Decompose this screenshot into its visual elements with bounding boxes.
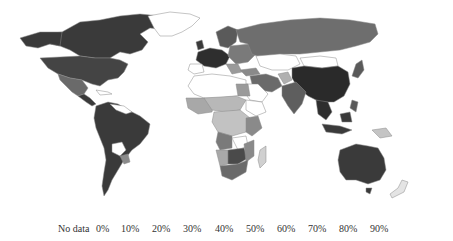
legend-no-data: No data: [58, 223, 89, 234]
region-turkey: [240, 68, 260, 76]
region-madagascar: [258, 146, 266, 168]
region-east-africa: [246, 100, 266, 116]
world-map: [0, 0, 453, 215]
legend-60: 60%: [277, 223, 295, 234]
legend-20: 20%: [152, 223, 170, 234]
region-namibia: [216, 150, 228, 166]
region-tasmania: [366, 188, 372, 194]
legend-70: 70%: [308, 223, 326, 234]
region-indonesia: [322, 124, 352, 134]
legend-80: 80%: [339, 223, 357, 234]
region-papua-new-guinea: [372, 128, 392, 138]
region-borneo: [340, 112, 352, 122]
region-uk: [196, 40, 204, 50]
legend-40: 40%: [215, 223, 233, 234]
region-mozambique: [244, 140, 254, 162]
region-central-america: [78, 94, 96, 106]
legend-0: 0%: [96, 223, 109, 234]
legend-30: 30%: [183, 223, 201, 234]
region-usa: [40, 56, 128, 86]
legend-50: 50%: [246, 223, 264, 234]
region-alaska: [20, 32, 62, 48]
region-australia: [338, 144, 386, 184]
region-kenya-tanzania: [246, 116, 262, 136]
region-philippines: [350, 100, 358, 112]
region-japan: [352, 60, 364, 78]
region-egypt: [236, 84, 250, 96]
region-new-zealand: [390, 180, 408, 198]
region-scandinavia: [216, 26, 238, 48]
region-greenland: [148, 12, 200, 36]
region-southeast-asia: [316, 100, 332, 120]
map-legend: No data 0% 10% 20% 30% 40% 50% 60% 70% 8…: [0, 223, 453, 239]
region-caribbean: [96, 90, 112, 95]
region-iberia: [188, 64, 204, 74]
legend-10: 10%: [121, 223, 139, 234]
legend-90: 90%: [370, 223, 388, 234]
region-russia: [236, 18, 378, 58]
region-central-africa: [212, 110, 250, 136]
region-balkans: [226, 64, 242, 74]
